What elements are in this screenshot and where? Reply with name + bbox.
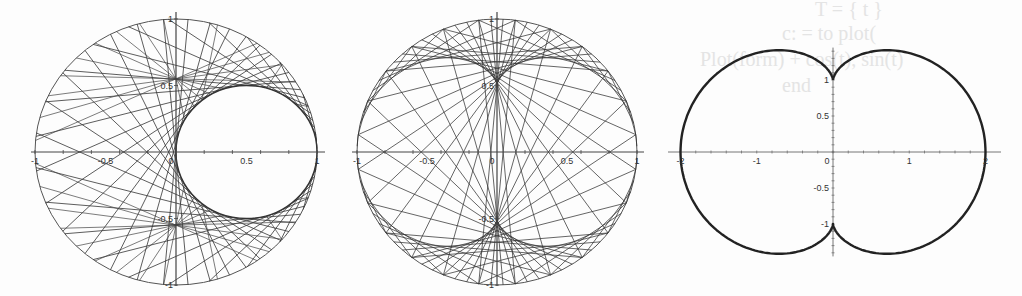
y-tick-label: -1: [821, 219, 829, 229]
envelope-chord: [368, 46, 583, 101]
envelope-chord: [412, 203, 627, 258]
fan-chord: [60, 76, 295, 82]
x-tick-label: 1: [314, 156, 319, 166]
y-tick-label: 1: [824, 75, 829, 85]
envelope-chord: [373, 213, 479, 283]
envelope-chord: [358, 135, 561, 270]
envelope-chord: [368, 29, 444, 101]
envelope-chord: [358, 34, 561, 169]
x-tick-label: 0.5: [561, 156, 574, 166]
envelope-chord: [551, 203, 627, 275]
x-tick-label: -1: [31, 156, 39, 166]
chord-envelope-nephroid-plot: -1-0.50.5110.5-0.5-10: [340, 0, 680, 296]
y-tick-label: 1: [168, 14, 173, 24]
x-tick-label: -2: [676, 156, 684, 166]
chord-envelope-circle-plot: -1-0.50.5110.5-0.5-10: [0, 0, 340, 296]
envelope-chord: [515, 213, 621, 283]
envelope-chord: [422, 40, 636, 135]
envelope-chord: [358, 169, 367, 203]
y-tick-label: -1: [165, 280, 173, 290]
envelope-chord: [379, 20, 515, 80]
y-tick-label: -0.5: [478, 214, 494, 224]
envelope-chord: [358, 169, 572, 264]
y-tick-label: 0.5: [816, 111, 829, 121]
origin-label: 0: [824, 156, 829, 166]
envelope-chord: [479, 223, 615, 283]
envelope-chord: [373, 20, 479, 90]
fan-chord: [60, 222, 295, 228]
x-tick-label: -0.5: [419, 156, 435, 166]
envelope-chord: [515, 20, 621, 90]
envelope-chord: [368, 203, 583, 258]
x-tick-label: 2: [983, 156, 988, 166]
envelope-chord: [582, 192, 630, 258]
x-tick-label: -0.5: [98, 156, 114, 166]
origin-label: 0: [168, 156, 173, 166]
envelope-chord: [626, 101, 635, 135]
y-tick-label: 0.5: [481, 81, 494, 91]
x-tick-label: -1: [753, 156, 761, 166]
origin-label: 0: [489, 156, 494, 166]
envelope-chord: [357, 135, 358, 147]
envelope-chord: [412, 46, 627, 101]
y-tick-label: 1: [489, 14, 494, 24]
y-tick-label: 0.5: [160, 81, 173, 91]
envelope-chord: [363, 46, 411, 112]
y-tick-label: -0.5: [157, 214, 173, 224]
x-tick-label: -1: [353, 156, 361, 166]
envelope-chord: [432, 34, 635, 169]
y-tick-label: -0.5: [813, 183, 829, 193]
x-tick-label: 1: [907, 156, 912, 166]
y-tick-label: -1: [486, 280, 494, 290]
envelope-chord: [432, 135, 635, 270]
x-tick-label: 1: [634, 156, 639, 166]
nephroid-curve-plot: -2-112010.5-0.5-1: [660, 0, 1022, 296]
x-tick-label: 0.5: [240, 156, 253, 166]
envelope-chord: [636, 135, 637, 147]
